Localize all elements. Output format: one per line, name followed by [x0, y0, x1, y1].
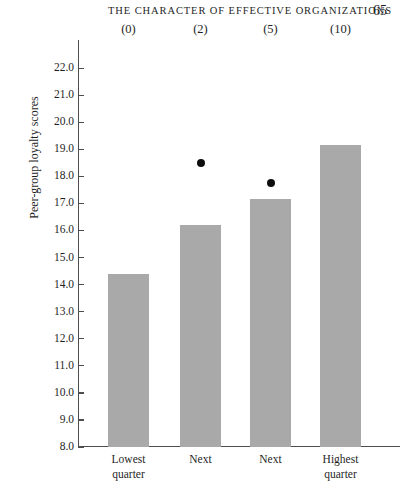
y-axis-tick-label: 15.0 — [30, 251, 74, 263]
top-annotation-label: (2) — [171, 22, 231, 37]
y-axis-tick-label: 21.0 — [30, 88, 74, 100]
y-axis-tick-label: 14.0 — [30, 278, 74, 290]
y-axis-tick — [79, 122, 84, 123]
y-axis-tick-label: 13.0 — [30, 305, 74, 317]
x-axis-category-label-line: Lowest — [94, 452, 164, 467]
y-axis-tick — [79, 230, 84, 231]
y-axis-tick-label: 11.0 — [30, 359, 74, 371]
y-axis-tick — [79, 447, 84, 448]
bar — [320, 145, 361, 447]
x-axis-category-label-line: Highest — [306, 452, 376, 467]
x-axis-category-label-line: quarter — [94, 467, 164, 482]
y-axis-tick-label: 22.0 — [30, 61, 74, 73]
bar — [250, 199, 291, 447]
y-axis-tick-label: 19.0 — [30, 142, 74, 154]
y-axis-tick-label: 18.0 — [30, 169, 74, 181]
y-axis-tick-label: 9.0 — [30, 413, 74, 425]
y-axis-tick — [79, 257, 84, 258]
bar — [180, 225, 221, 447]
scatter-marker — [267, 179, 275, 187]
top-annotation-label: (0) — [99, 22, 159, 37]
bar — [108, 274, 149, 447]
y-axis-tick-label: 17.0 — [30, 196, 74, 208]
x-axis-category-label: Next — [166, 452, 236, 467]
top-annotation-label: (5) — [241, 22, 301, 37]
y-axis-tick-label: 12.0 — [30, 332, 74, 344]
x-axis-category-label-line: Next — [166, 452, 236, 467]
y-axis-line — [78, 40, 79, 448]
y-axis-tick — [79, 95, 84, 96]
y-axis-tick-label: 8.0 — [30, 440, 74, 452]
x-axis-category-label: Lowestquarter — [94, 452, 164, 482]
y-axis-tick — [79, 284, 84, 285]
x-axis-category-label: Next — [236, 452, 306, 467]
y-axis-tick — [79, 149, 84, 150]
y-axis-tick — [79, 392, 84, 393]
top-annotation-label: (10) — [311, 22, 371, 37]
y-axis-tick — [79, 419, 84, 420]
y-axis-tick — [79, 203, 84, 204]
x-axis-category-label-line: quarter — [306, 467, 376, 482]
y-axis-tick-label: 20.0 — [30, 115, 74, 127]
y-axis-tick — [79, 338, 84, 339]
y-axis-tick — [79, 311, 84, 312]
x-axis-category-label-line: Next — [236, 452, 306, 467]
scatter-marker — [197, 159, 205, 167]
y-axis-tick-label: 10.0 — [30, 386, 74, 398]
y-axis-tick — [79, 176, 84, 177]
y-axis-tick — [79, 68, 84, 69]
y-axis-tick — [79, 365, 84, 366]
bar-chart-figure: Peer-group loyalty scores 22.021.020.019… — [0, 0, 410, 488]
y-axis-tick-label: 16.0 — [30, 223, 74, 235]
x-axis-category-label: Highestquarter — [306, 452, 376, 482]
